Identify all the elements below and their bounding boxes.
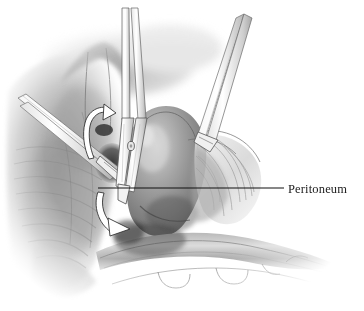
illustration-figure: Peritoneum — [0, 0, 364, 311]
label-peritoneum: Peritoneum — [288, 183, 347, 196]
surgical-illustration-canvas — [0, 0, 364, 311]
